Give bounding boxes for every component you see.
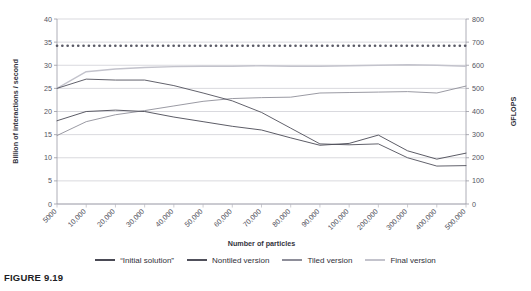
y2-axis-tick-label: 700 xyxy=(472,38,484,47)
x-axis-tick-label: 300,000 xyxy=(384,207,409,232)
y-axis-tick-label: 5 xyxy=(48,176,52,185)
y-axis-tick-label: 40 xyxy=(44,15,52,24)
line-chart: 0510152025303540010020030040050060070080… xyxy=(0,0,531,250)
y2-axis-tick-label: 0 xyxy=(472,200,476,209)
x-axis-tick-label: 400,000 xyxy=(413,207,438,232)
legend-item: Final version xyxy=(365,256,435,265)
y-axis-tick-label: 15 xyxy=(44,130,52,139)
y-axis-tick-label: 35 xyxy=(44,38,52,47)
y2-axis-tick-label: 300 xyxy=(472,130,484,139)
legend-item: “Initial solution” xyxy=(95,256,174,265)
y-axis-tick-label: 20 xyxy=(44,107,52,116)
legend-item: Nontiled version xyxy=(187,256,269,265)
y2-axis-tick-label: 600 xyxy=(472,61,484,70)
y2-axis-title: GFLOPS xyxy=(509,97,518,127)
x-axis-title: Number of particles xyxy=(228,239,296,248)
chart-legend: “Initial solution”Nontiled versionTiled … xyxy=(0,252,531,268)
figure-9-19: 0510152025303540010020030040050060070080… xyxy=(0,0,531,291)
y-axis-tick-label: 10 xyxy=(44,153,52,162)
y2-axis-tick-label: 500 xyxy=(472,84,484,93)
x-axis-tick-label: 20,000 xyxy=(95,207,117,229)
y-axis-tick-label: 25 xyxy=(44,84,52,93)
legend-label: Tiled version xyxy=(307,256,352,265)
x-axis-tick-label: 60,000 xyxy=(212,207,234,229)
y-axis-title: Billion of interactions / second xyxy=(11,59,20,164)
legend-item: Tiled version xyxy=(282,256,352,265)
x-axis-tick-label: 100,000 xyxy=(326,207,351,232)
chart-plot-area: 0510152025303540010020030040050060070080… xyxy=(0,0,531,250)
x-axis-tick-label: 70,000 xyxy=(241,207,263,229)
x-axis-tick-label: 40,000 xyxy=(153,207,175,229)
x-axis-tick-label: 200,000 xyxy=(355,207,380,232)
legend-swatch-icon xyxy=(95,259,115,261)
x-axis-tick-label: 50,000 xyxy=(183,207,205,229)
x-axis-tick-label: 90,000 xyxy=(299,207,321,229)
y2-axis-tick-label: 100 xyxy=(472,176,484,185)
y2-axis-tick-label: 200 xyxy=(472,153,484,162)
y2-axis-tick-label: 400 xyxy=(472,107,484,116)
legend-swatch-icon xyxy=(282,259,302,261)
figure-caption: FIGURE 9.19 xyxy=(4,272,63,283)
x-axis-tick-label: 5000 xyxy=(41,207,59,225)
legend-label: “Initial solution” xyxy=(120,256,174,265)
x-axis-tick-label: 10,000 xyxy=(66,207,88,229)
legend-label: Nontiled version xyxy=(212,256,269,265)
x-axis-tick-label: 80,000 xyxy=(270,207,292,229)
legend-swatch-icon xyxy=(187,259,207,261)
x-axis-tick-label: 30,000 xyxy=(124,207,146,229)
legend-swatch-icon xyxy=(365,259,385,261)
y2-axis-tick-label: 800 xyxy=(472,15,484,24)
x-axis-tick-label: 500,000 xyxy=(443,207,468,232)
legend-label: Final version xyxy=(390,256,435,265)
y-axis-tick-label: 30 xyxy=(44,61,52,70)
